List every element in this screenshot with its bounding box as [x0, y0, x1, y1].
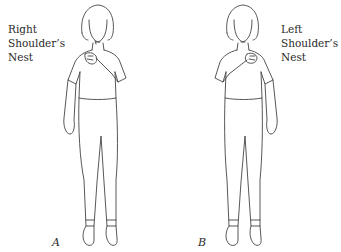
- figure-a-person-icon: [60, 0, 140, 252]
- figure-label-a: A: [52, 236, 60, 249]
- caption-line: Shoulder’s: [8, 36, 65, 50]
- figure-label-b: B: [198, 236, 206, 249]
- figure-b-person-icon: [205, 0, 285, 252]
- caption-line: Left: [281, 22, 338, 36]
- caption-left-shoulders-nest: Left Shoulder’s Nest: [281, 22, 338, 64]
- caption-line: Nest: [8, 50, 65, 64]
- caption-right-shoulders-nest: Right Shoulder’s Nest: [8, 22, 65, 64]
- caption-line: Right: [8, 22, 65, 36]
- caption-line: Shoulder’s: [281, 36, 338, 50]
- caption-line: Nest: [281, 50, 338, 64]
